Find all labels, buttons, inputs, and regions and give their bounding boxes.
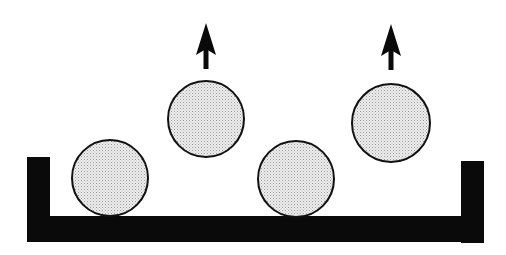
arrow-up-icon <box>381 24 401 70</box>
arrow-up-icon <box>196 23 216 69</box>
ball-resting-2 <box>258 141 334 217</box>
ball-lifted-1 <box>168 81 244 157</box>
balls <box>72 81 430 217</box>
tray-base <box>27 216 484 242</box>
ball-resting-1 <box>72 140 148 216</box>
diagram-canvas <box>0 0 506 255</box>
tray-right-wall <box>461 161 484 243</box>
ball-lifted-2 <box>352 84 430 162</box>
tray-diagram <box>0 0 506 255</box>
